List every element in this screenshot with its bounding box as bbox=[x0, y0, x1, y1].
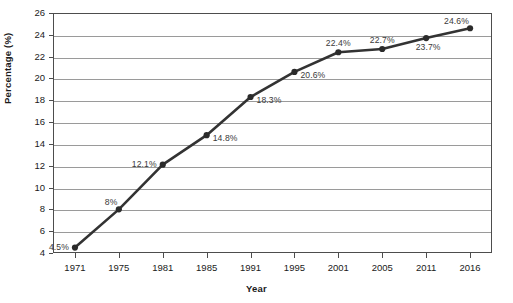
y-tick-mark bbox=[49, 35, 53, 36]
x-tick-label: 1991 bbox=[240, 262, 261, 273]
x-tick-label: 2005 bbox=[372, 262, 393, 273]
x-tick-mark bbox=[470, 253, 471, 258]
gridline bbox=[54, 58, 491, 59]
data-label: 14.8% bbox=[213, 133, 238, 143]
y-tick-mark bbox=[49, 13, 53, 14]
x-tick-mark bbox=[163, 253, 164, 258]
y-tick-label: 8 bbox=[40, 203, 45, 214]
gridline bbox=[54, 210, 491, 211]
y-tick-label: 18 bbox=[34, 94, 45, 105]
data-label: 24.6% bbox=[444, 16, 469, 26]
y-tick-label: 24 bbox=[34, 29, 45, 40]
gridline bbox=[54, 36, 491, 37]
y-axis-title: Percentage (%) bbox=[2, 33, 13, 104]
y-tick-label: 4 bbox=[40, 247, 45, 258]
data-label: 18.3% bbox=[257, 95, 282, 105]
x-tick-label: 1981 bbox=[152, 262, 173, 273]
x-tick-label: 2011 bbox=[416, 262, 436, 273]
y-tick-mark bbox=[49, 188, 53, 189]
y-tick-mark bbox=[49, 231, 53, 232]
gridline bbox=[54, 123, 491, 124]
gridline bbox=[54, 145, 491, 146]
x-tick-label: 1975 bbox=[108, 262, 129, 273]
x-tick-label: 2001 bbox=[328, 262, 349, 273]
data-label: 4.5% bbox=[49, 242, 69, 252]
y-tick-label: 12 bbox=[34, 160, 45, 171]
data-label: 12.1% bbox=[132, 159, 157, 169]
x-axis-title: Year bbox=[0, 283, 513, 294]
gridline bbox=[54, 232, 491, 233]
y-tick-label: 14 bbox=[34, 138, 45, 149]
y-tick-label: 10 bbox=[34, 182, 45, 193]
x-tick-mark bbox=[75, 253, 76, 258]
y-tick-label: 20 bbox=[34, 72, 45, 83]
x-tick-label: 1971 bbox=[64, 262, 85, 273]
y-tick-mark bbox=[49, 144, 53, 145]
data-label: 20.6% bbox=[300, 70, 325, 80]
y-tick-mark bbox=[49, 253, 53, 254]
y-tick-label: 26 bbox=[34, 7, 45, 18]
x-tick-mark bbox=[207, 253, 208, 258]
x-tick-label: 1985 bbox=[196, 262, 217, 273]
gridline bbox=[54, 189, 491, 190]
x-tick-mark bbox=[382, 253, 383, 258]
y-tick-label: 6 bbox=[40, 225, 45, 236]
x-tick-label: 1995 bbox=[284, 262, 305, 273]
x-tick-mark bbox=[119, 253, 120, 258]
data-label: 23.7% bbox=[416, 42, 441, 52]
x-tick-mark bbox=[251, 253, 252, 258]
line-chart: Percentage (%) 262422201816141210864 197… bbox=[0, 0, 513, 303]
y-tick-mark bbox=[49, 57, 53, 58]
x-tick-mark bbox=[426, 253, 427, 258]
x-tick-label: 2016 bbox=[459, 262, 480, 273]
gridline bbox=[54, 79, 491, 80]
y-tick-mark bbox=[49, 209, 53, 210]
gridline bbox=[54, 167, 491, 168]
data-label: 8% bbox=[105, 197, 118, 207]
y-tick-mark bbox=[49, 166, 53, 167]
y-tick-mark bbox=[49, 100, 53, 101]
y-tick-mark bbox=[49, 122, 53, 123]
x-tick-mark bbox=[294, 253, 295, 258]
data-label: 22.7% bbox=[370, 35, 395, 45]
y-tick-mark bbox=[49, 78, 53, 79]
data-label: 22.4% bbox=[326, 38, 351, 48]
x-tick-mark bbox=[338, 253, 339, 258]
y-tick-label: 16 bbox=[34, 116, 45, 127]
y-tick-label: 22 bbox=[34, 51, 45, 62]
